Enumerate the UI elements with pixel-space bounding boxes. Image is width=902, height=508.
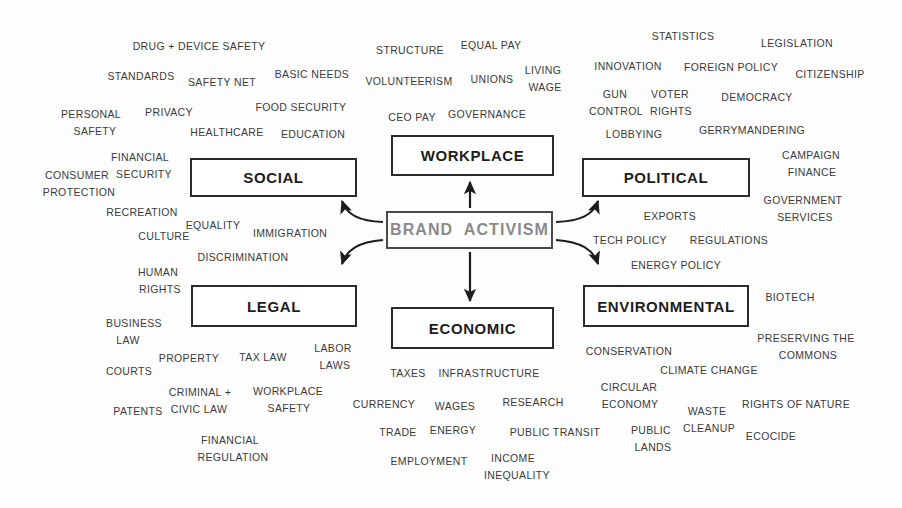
keyword-label: EMPLOYMENT xyxy=(390,455,467,468)
category-box-political[interactable]: POLITICAL xyxy=(582,158,750,197)
keyword-label: GUN xyxy=(603,88,627,101)
keyword-label: TECH POLICY xyxy=(593,234,667,247)
category-box-legal[interactable]: LEGAL xyxy=(191,285,357,327)
keyword-label: RIGHTS xyxy=(139,283,181,296)
keyword-label: STRUCTURE xyxy=(376,44,444,57)
keyword-label: BIOTECH xyxy=(765,291,814,304)
category-box-social[interactable]: SOCIAL xyxy=(190,158,357,197)
keyword-label: TAXES xyxy=(390,367,425,380)
category-label-legal: LEGAL xyxy=(247,298,301,315)
keyword-label: ECONOMY xyxy=(602,398,659,411)
keyword-label: REGULATIONS xyxy=(690,234,768,247)
category-box-workplace[interactable]: WORKPLACE xyxy=(391,135,554,176)
keyword-label: PRIVACY xyxy=(145,106,193,119)
keyword-label: RECREATION xyxy=(106,206,178,219)
category-box-environmental[interactable]: ENVIRONMENTAL xyxy=(583,285,749,327)
keyword-label: PERSONAL xyxy=(61,108,121,121)
category-label-social: SOCIAL xyxy=(243,169,303,186)
keyword-label: STANDARDS xyxy=(107,70,174,83)
keyword-label: CITIZENSHIP xyxy=(795,68,864,81)
keyword-label: PUBLIC xyxy=(631,424,671,437)
keyword-label: DRUG + DEVICE SAFETY xyxy=(133,40,266,53)
arrow-center-to-social xyxy=(342,201,383,222)
keyword-label: TAX LAW xyxy=(239,351,286,364)
keyword-label: WASTE xyxy=(688,405,727,418)
arrow-center-to-legal xyxy=(342,240,383,264)
keyword-label: COMMONS xyxy=(779,349,837,362)
keyword-label: REGULATION xyxy=(198,451,269,464)
keyword-label: SAFETY xyxy=(74,125,117,138)
keyword-label: HUMAN xyxy=(138,266,178,279)
keyword-label: CRIMINAL + xyxy=(169,386,231,399)
keyword-label: GOVERNMENT xyxy=(764,194,843,207)
keyword-label: EQUALITY xyxy=(186,219,241,232)
keyword-label: COURTS xyxy=(106,365,152,378)
keyword-label: PRESERVING THE xyxy=(757,332,854,345)
keyword-label: FINANCE xyxy=(788,166,837,179)
keyword-label: FOREIGN POLICY xyxy=(684,61,778,74)
keyword-label: SECURITY xyxy=(116,168,172,181)
keyword-label: PATENTS xyxy=(113,405,162,418)
arrow-center-to-environmental xyxy=(556,240,598,264)
category-label-workplace: WORKPLACE xyxy=(421,147,525,164)
keyword-label: LAW xyxy=(116,334,139,347)
keyword-label: VOTER xyxy=(651,88,689,101)
keyword-label: CLIMATE CHANGE xyxy=(660,364,757,377)
keyword-label: LIVING xyxy=(525,64,562,77)
keyword-label: EQUAL PAY xyxy=(461,39,522,52)
keyword-label: CIVIC LAW xyxy=(171,403,227,416)
keyword-label: CULTURE xyxy=(138,230,189,243)
keyword-label: RESEARCH xyxy=(502,396,563,409)
keyword-label: LANDS xyxy=(635,441,672,454)
keyword-label: PROTECTION xyxy=(43,186,115,199)
keyword-label: RIGHTS xyxy=(650,105,692,118)
keyword-label: LAWS xyxy=(320,359,351,372)
keyword-label: DEMOCRACY xyxy=(721,91,792,104)
keyword-label: INEQUALITY xyxy=(484,469,550,482)
keyword-label: CIRCULAR xyxy=(601,381,657,394)
category-label-environmental: ENVIRONMENTAL xyxy=(597,298,735,315)
keyword-label: ENERGY POLICY xyxy=(631,259,721,272)
keyword-label: CONSUMER xyxy=(45,169,109,182)
keyword-label: EXPORTS xyxy=(644,210,696,223)
keyword-label: EDUCATION xyxy=(281,128,345,141)
keyword-label: CURRENCY xyxy=(353,398,415,411)
category-label-political: POLITICAL xyxy=(624,169,709,186)
keyword-label: FINANCIAL xyxy=(111,151,169,164)
keyword-label: INCOME xyxy=(491,452,535,465)
category-box-economic[interactable]: ECONOMIC xyxy=(391,307,554,349)
keyword-label: ECOCIDE xyxy=(746,430,796,443)
keyword-label: WAGE xyxy=(528,81,561,94)
center-node-brand-activism[interactable]: BRAND ACTIVISM xyxy=(386,211,553,249)
keyword-label: GOVERNANCE xyxy=(448,108,526,121)
keyword-label: PUBLIC TRANSIT xyxy=(510,426,600,439)
keyword-label: SAFETY NET xyxy=(188,76,256,89)
keyword-label: HEALTHCARE xyxy=(190,126,263,139)
keyword-label: BUSINESS xyxy=(106,317,162,330)
keyword-label: SAFETY xyxy=(268,402,311,415)
keyword-label: SERVICES xyxy=(777,211,833,224)
keyword-label: CONTROL xyxy=(589,105,643,118)
keyword-label: UNIONS xyxy=(471,73,514,86)
keyword-label: WAGES xyxy=(435,400,475,413)
keyword-label: LOBBYING xyxy=(606,128,662,141)
keyword-label: DISCRIMINATION xyxy=(197,251,288,264)
keyword-label: INNOVATION xyxy=(594,60,661,73)
keyword-label: TRADE xyxy=(379,426,416,439)
keyword-label: LEGISLATION xyxy=(761,37,833,50)
keyword-label: PROPERTY xyxy=(159,352,219,365)
keyword-label: RIGHTS OF NATURE xyxy=(742,398,850,411)
center-node-label: BRAND ACTIVISM xyxy=(390,221,549,239)
keyword-label: ENERGY xyxy=(430,424,476,437)
keyword-label: LABOR xyxy=(314,342,351,355)
keyword-label: FINANCIAL xyxy=(201,434,259,447)
arrow-center-to-political xyxy=(556,201,598,222)
keyword-label: WORKPLACE xyxy=(253,385,323,398)
keyword-label: CAMPAIGN xyxy=(782,149,840,162)
keyword-label: CONSERVATION xyxy=(586,345,672,358)
keyword-label: BASIC NEEDS xyxy=(275,68,349,81)
keyword-label: STATISTICS xyxy=(652,30,715,43)
diagram-canvas: DRUG + DEVICE SAFETYSTANDARDSSAFETY NETB… xyxy=(0,0,902,508)
keyword-label: INFRASTRUCTURE xyxy=(438,367,539,380)
keyword-label: FOOD SECURITY xyxy=(256,101,347,114)
